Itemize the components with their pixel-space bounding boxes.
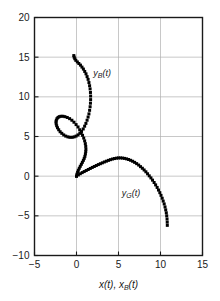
data-point <box>164 205 167 208</box>
data-point <box>156 186 159 189</box>
data-point <box>88 84 91 87</box>
data-point <box>157 189 160 192</box>
data-point <box>87 78 90 81</box>
data-point <box>166 218 169 221</box>
data-point <box>89 87 92 90</box>
x-axis-label: x(t), xB(t) <box>98 279 138 291</box>
data-point <box>86 119 89 122</box>
data-point <box>165 214 168 217</box>
y-tick-label: 0 <box>24 171 30 182</box>
xlabel-main: x(t), x <box>98 279 125 290</box>
x-tick-label: 15 <box>197 259 209 270</box>
y-tick-label: 20 <box>18 12 30 23</box>
data-point <box>87 116 90 119</box>
data-point <box>84 148 87 151</box>
data-point <box>83 125 86 128</box>
data-point <box>87 112 90 115</box>
x-tick-label: 0 <box>74 259 80 270</box>
figure-container: −10−505101520 −5051015 yB(t)yG(t) x(t), … <box>0 0 220 301</box>
data-point <box>161 197 164 200</box>
x-tick-label: 5 <box>116 259 122 270</box>
data-point <box>84 142 87 145</box>
y-tick-label: −5 <box>18 210 30 221</box>
curve-annotations: yB(t)yG(t) <box>92 68 140 199</box>
x-axis-label-text: x(t), xB(t) <box>98 279 138 291</box>
data-point <box>72 54 75 57</box>
y-tick-label: 15 <box>18 52 30 63</box>
data-point <box>84 145 87 148</box>
data-point <box>160 194 163 197</box>
x-tick-label: −5 <box>29 259 41 270</box>
data-point <box>166 221 169 224</box>
data-point <box>82 127 85 130</box>
data-series-markers <box>55 54 169 227</box>
y-tick-label: 5 <box>24 131 30 142</box>
data-point <box>88 109 91 112</box>
data-point <box>81 134 84 137</box>
data-point <box>164 208 167 211</box>
scatter-plot: −10−505101520 −5051015 yB(t)yG(t) x(t), … <box>0 0 220 301</box>
data-point <box>165 211 168 214</box>
data-point <box>89 102 92 105</box>
xlabel-main-2: (t) <box>129 279 138 290</box>
y-tick-label: −10 <box>13 250 30 261</box>
data-point <box>166 224 169 227</box>
x-axis-tick-labels: −5051015 <box>29 259 209 270</box>
data-point <box>84 122 87 125</box>
series-yBt <box>55 54 93 178</box>
data-point <box>86 75 89 78</box>
label-main-2: (t) <box>132 188 141 198</box>
y-axis-tick-labels: −10−505101520 <box>13 12 30 261</box>
data-point <box>89 95 92 98</box>
data-point <box>83 139 86 142</box>
label-main-2: (t) <box>102 68 111 78</box>
data-point <box>163 202 166 205</box>
data-point <box>158 191 161 194</box>
data-point <box>89 105 92 108</box>
data-point <box>87 81 90 84</box>
grid-lines <box>35 18 203 256</box>
curve-label-yGt: yG(t) <box>121 188 140 199</box>
data-point <box>82 137 85 140</box>
data-point <box>89 91 92 94</box>
data-point <box>162 200 165 203</box>
y-tick-label: 10 <box>18 91 30 102</box>
x-tick-label: 10 <box>155 259 167 270</box>
data-point <box>89 98 92 101</box>
curve-label-yBt: yB(t) <box>92 68 111 79</box>
